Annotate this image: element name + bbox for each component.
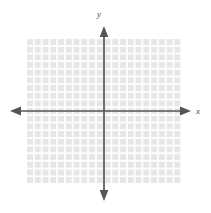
x-axis-left-arrowhead: [10, 107, 21, 116]
y-axis: [100, 26, 109, 201]
y-axis-bottom-arrowhead: [100, 190, 109, 201]
x-axis-right-arrowhead: [180, 107, 191, 116]
x-axis-label: x: [196, 107, 200, 116]
y-axis-label: y: [97, 10, 101, 19]
x-axis: [10, 107, 191, 116]
axes-layer: [0, 0, 211, 213]
coordinate-plane-figure: x y: [0, 0, 211, 213]
y-axis-top-arrowhead: [100, 26, 109, 37]
